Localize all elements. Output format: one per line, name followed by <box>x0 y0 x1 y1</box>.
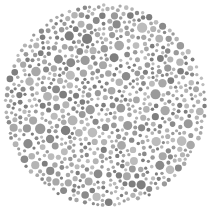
dot <box>86 105 95 114</box>
dot <box>138 134 142 138</box>
dot <box>40 103 46 109</box>
dot <box>74 101 77 104</box>
dot <box>29 169 34 174</box>
dot <box>199 131 203 135</box>
dot <box>87 142 91 146</box>
dot <box>140 115 146 121</box>
dot <box>151 122 156 127</box>
dot <box>150 89 160 99</box>
dot <box>49 19 53 23</box>
dot <box>109 41 112 44</box>
dot <box>172 68 176 72</box>
dot <box>60 137 63 140</box>
dot <box>164 64 171 71</box>
dot <box>141 158 145 162</box>
dot <box>90 71 95 76</box>
dot <box>125 162 130 167</box>
dot <box>184 110 188 114</box>
dot <box>38 50 44 56</box>
dot <box>81 81 84 84</box>
dot <box>139 107 142 110</box>
dot <box>156 186 160 190</box>
dot <box>157 130 161 134</box>
dot <box>182 162 186 166</box>
dot <box>151 176 155 180</box>
dot <box>130 28 134 32</box>
dot <box>146 128 150 132</box>
dot <box>73 176 78 181</box>
dot <box>112 73 116 77</box>
dot <box>30 86 35 91</box>
dot <box>83 146 87 150</box>
dot <box>110 103 116 109</box>
dot <box>158 79 166 87</box>
dot <box>68 157 73 162</box>
dot <box>52 143 59 150</box>
dot <box>193 86 199 92</box>
dot <box>141 81 146 86</box>
dot <box>128 92 132 96</box>
dot <box>123 121 132 130</box>
dot <box>86 159 90 163</box>
dot <box>86 100 90 104</box>
dot <box>81 106 85 110</box>
dot <box>88 198 91 201</box>
dot <box>81 43 84 46</box>
dot <box>95 76 99 80</box>
dot <box>66 173 71 178</box>
dot <box>47 77 50 80</box>
dot <box>68 197 72 201</box>
dot <box>83 78 86 81</box>
dot <box>10 124 18 132</box>
dot <box>38 158 41 161</box>
dot <box>184 89 188 93</box>
dot <box>160 172 163 175</box>
dot <box>88 88 91 91</box>
dot <box>13 141 19 147</box>
dot <box>191 97 194 100</box>
dot <box>60 187 67 194</box>
dot <box>101 41 104 44</box>
dot <box>11 69 18 76</box>
dot <box>185 71 189 75</box>
dot <box>16 54 19 57</box>
dot <box>58 49 62 53</box>
dot <box>116 197 119 200</box>
dot <box>28 45 32 49</box>
dot <box>154 20 159 25</box>
dot <box>42 59 47 64</box>
dot <box>184 104 189 109</box>
dot <box>76 48 83 55</box>
dot <box>110 53 119 62</box>
dot <box>99 154 104 159</box>
dot <box>31 67 41 77</box>
dot <box>79 138 82 141</box>
dot <box>118 179 121 182</box>
dot <box>108 156 111 159</box>
dot <box>138 153 141 156</box>
dot <box>92 119 98 125</box>
dot <box>119 151 122 154</box>
dot <box>182 98 186 102</box>
dot <box>99 61 107 69</box>
dot <box>101 45 108 52</box>
dot <box>86 23 93 30</box>
dot <box>116 134 121 139</box>
dot <box>145 122 149 126</box>
dot <box>69 90 73 94</box>
dot <box>81 56 90 65</box>
dot <box>71 188 75 192</box>
dot <box>32 33 35 36</box>
dot <box>5 93 10 98</box>
dot <box>127 12 134 19</box>
dot <box>23 93 26 96</box>
dot <box>151 67 154 70</box>
dot <box>170 121 176 127</box>
dot <box>89 148 92 151</box>
dot <box>101 160 104 163</box>
dot <box>53 129 57 133</box>
dot <box>163 61 166 64</box>
dot <box>105 57 109 61</box>
dot <box>89 188 95 194</box>
dot <box>101 103 106 108</box>
